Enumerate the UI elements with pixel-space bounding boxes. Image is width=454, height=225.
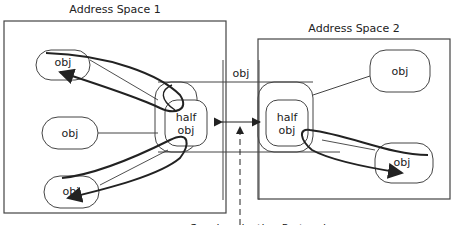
address-space-2-title: Address Space 2 [308,22,399,35]
svg-text:obj: obj [55,56,72,69]
space1-object-middle: obj [42,117,158,149]
svg-text:half: half [277,111,299,124]
protocol-label: Synchronization Protocol [190,222,326,225]
thread-path-bottom [62,137,187,198]
svg-text:obj: obj [279,124,296,137]
shared-object-label: obj [233,67,250,80]
half-obj-2: half obj [266,100,308,146]
svg-text:half: half [176,111,198,124]
svg-text:obj: obj [178,124,195,137]
address-space-1-title: Address Space 1 [69,3,160,16]
space2-object-top: obj [313,50,430,95]
diagram-canvas: Address Space 1 Address Space 2 obj half… [0,0,454,225]
svg-text:obj: obj [392,65,409,78]
svg-text:obj: obj [62,127,79,140]
svg-text:obj: obj [394,156,411,169]
sync-double-arrow [222,122,260,225]
